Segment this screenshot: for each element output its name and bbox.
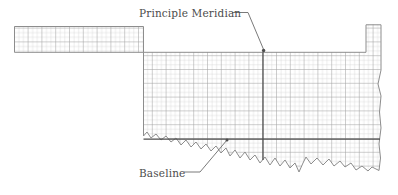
- meridian-leader-point: [262, 49, 265, 52]
- map-svg: [0, 0, 398, 195]
- principal-meridian-label: Principle Meridian: [139, 7, 241, 19]
- baseline-leader-point: [226, 139, 229, 142]
- grid-overlay: [14, 24, 384, 176]
- oklahoma-survey-grid-figure: Principle Meridian Baseline: [0, 0, 398, 195]
- baseline-label: Baseline: [139, 167, 185, 179]
